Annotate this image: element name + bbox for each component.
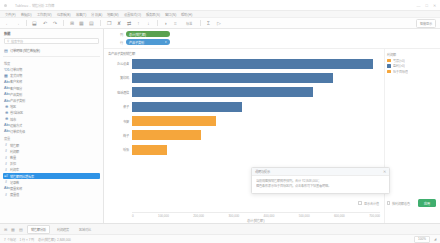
field-type-icon: Abc xyxy=(4,186,8,190)
menu-item-file[interactable]: 文件(F) xyxy=(5,12,16,17)
bar-value[interactable] xyxy=(132,87,313,97)
tab-profit-trend[interactable]: 利润趋势 xyxy=(54,226,72,233)
sort-desc-icon[interactable]: ↓ xyxy=(145,20,152,27)
new-story-icon[interactable]: ▤ xyxy=(88,20,95,27)
new-worksheet-icon[interactable]: ⊞ xyxy=(68,20,75,27)
menu-item-story[interactable]: 故事(T) xyxy=(76,12,87,17)
legend-swatch xyxy=(387,64,391,68)
checkbox-box[interactable] xyxy=(358,201,362,205)
columns-shelf: 列 总计(销售额) xyxy=(107,30,437,38)
new-dashboard-icon[interactable]: ▦ xyxy=(11,227,15,232)
field-type-icon: Ὄ5 xyxy=(4,68,8,72)
new-worksheet-icon[interactable]: ⊞ xyxy=(4,227,7,232)
bar-row[interactable]: 桌子 xyxy=(106,100,380,113)
x-tick: 100,000 xyxy=(158,214,169,218)
columns-shelf-label: 列 xyxy=(107,32,123,37)
rows-shelf-well[interactable]: 产品子类别 ▾ xyxy=(126,39,437,46)
redo-icon[interactable]: ↷ xyxy=(51,20,58,27)
bar-value[interactable] xyxy=(132,130,201,140)
search-input[interactable]: ⚲ 搜索字段 xyxy=(4,38,99,44)
tab-sales-analysis[interactable]: 销售额分析 xyxy=(27,225,50,234)
menu-item-analysis[interactable]: 分析(A) xyxy=(91,12,102,17)
bar-value[interactable] xyxy=(132,59,373,69)
menu-item-window[interactable]: 窗口(N) xyxy=(165,12,176,17)
menu-item-worksheet[interactable]: 工作表(W) xyxy=(37,12,52,17)
swap-axis-icon[interactable]: ⇄ xyxy=(125,20,132,27)
field-type-icon: # xyxy=(4,162,8,166)
field-label: 省/自治区 xyxy=(10,110,23,115)
resize-grip-icon[interactable]: ◢ xyxy=(434,237,436,241)
new-story-icon[interactable]: ▤ xyxy=(19,227,23,232)
pill-columns[interactable]: 总计(销售额) xyxy=(126,31,170,37)
show-totals-checkbox[interactable]: 显示合计值 xyxy=(358,201,379,206)
menu-item-format[interactable]: 设置格式(O) xyxy=(124,12,141,17)
legend-label: 盈利 (>0) xyxy=(393,64,405,68)
category-label: 桌子 xyxy=(106,104,132,109)
field-type-icon: ⊕ xyxy=(4,105,8,109)
menu-item-dashboard[interactable]: 仪表板(B) xyxy=(57,12,71,17)
field-label: 产品类别 xyxy=(10,92,22,97)
dimensions-group-label: 维度 xyxy=(0,59,103,67)
menu-item-help[interactable]: 帮助(H) xyxy=(181,12,192,17)
new-dashboard-icon[interactable]: ▦ xyxy=(78,20,85,27)
checkbox-box[interactable] xyxy=(387,201,391,205)
presentation-icon[interactable]: ▷ xyxy=(215,20,222,27)
forward-icon[interactable]: → xyxy=(14,20,21,27)
bar-row[interactable]: 电话通信 xyxy=(106,86,380,99)
bar-row[interactable]: 书架 xyxy=(106,115,380,128)
totals-icon[interactable]: Σ xyxy=(205,20,212,27)
bar-row[interactable]: 复印机 xyxy=(106,71,380,84)
x-tick: 300,000 xyxy=(228,214,239,218)
field-label: 地区 xyxy=(10,104,16,109)
field-label: 城市 xyxy=(10,117,16,122)
minimize-icon[interactable]: — xyxy=(417,3,421,8)
fit-selector[interactable]: 标准 xyxy=(182,20,195,27)
menu-item-map[interactable]: 地图(M) xyxy=(107,12,118,17)
field-type-icon: # xyxy=(4,149,8,153)
legend-item[interactable]: 盈利 (>0) xyxy=(387,64,437,68)
clear-sheet-icon[interactable]: ✘ xyxy=(115,20,122,27)
zoom-level[interactable]: 100% xyxy=(414,236,430,243)
bar-value[interactable] xyxy=(132,116,216,126)
save-icon[interactable]: ⬓ xyxy=(31,20,38,27)
menu-item-data[interactable]: 数据(D) xyxy=(21,12,32,17)
legend-item[interactable]: 低于目标值 xyxy=(387,70,437,74)
group-icon[interactable]: ⌗ xyxy=(172,20,179,27)
measures-group-label: 度量 xyxy=(0,135,103,143)
legend-item[interactable]: 亏损 (<0) xyxy=(387,59,437,63)
field-type-icon: # xyxy=(4,156,8,160)
plot-area: 各产品子类别销售额 办公设备 复印机 电话通信 xyxy=(104,49,440,223)
data-source-item[interactable]: ▤ 订单明细 (销售数据集) xyxy=(0,46,103,54)
bar-row[interactable]: 椅子 xyxy=(106,129,380,142)
show-me-button[interactable]: 智能显示 xyxy=(416,19,436,28)
duplicate-icon[interactable]: ❐ xyxy=(105,20,112,27)
bar-value[interactable] xyxy=(132,73,333,83)
sort-asc-icon[interactable]: ↑ xyxy=(135,20,142,27)
field-type-icon: Abc xyxy=(4,123,8,127)
bar-track xyxy=(132,143,380,156)
popup-header: 说明与提示 ✕ xyxy=(252,168,389,176)
highlight-icon[interactable]: ◑ xyxy=(162,20,169,27)
pill-rows[interactable]: 产品子类别 ▾ xyxy=(126,39,170,45)
bar-value[interactable] xyxy=(132,102,242,112)
legend-swatch xyxy=(387,59,391,63)
field-type-icon: # xyxy=(4,193,8,197)
bar-row[interactable]: 纸张 xyxy=(106,143,380,156)
field-label: 度量名称 xyxy=(10,186,22,191)
tab-region-compare[interactable]: 区域对比 xyxy=(76,226,94,233)
category-label: 办公设备 xyxy=(106,61,132,66)
color-by-profit-checkbox[interactable]: 按利润额着色 xyxy=(387,201,411,206)
back-icon[interactable]: ← xyxy=(4,20,11,27)
bar-value[interactable] xyxy=(132,145,167,155)
columns-shelf-well[interactable]: 总计(销售额) xyxy=(126,31,437,38)
close-icon[interactable]: ✕ xyxy=(383,170,386,174)
maximize-icon[interactable]: □ xyxy=(426,3,428,8)
chevron-down-icon[interactable]: ▾ xyxy=(165,41,167,44)
close-icon[interactable]: ✕ xyxy=(433,3,436,8)
apply-button[interactable]: 应用 xyxy=(418,199,436,207)
bar-track xyxy=(132,100,380,113)
field-row[interactable]: #度量值 xyxy=(0,192,103,198)
bar-row[interactable]: 办公设备 xyxy=(106,57,380,70)
menu-item-server[interactable]: 服务器(S) xyxy=(146,12,160,17)
undo-icon[interactable]: ↶ xyxy=(41,20,48,27)
